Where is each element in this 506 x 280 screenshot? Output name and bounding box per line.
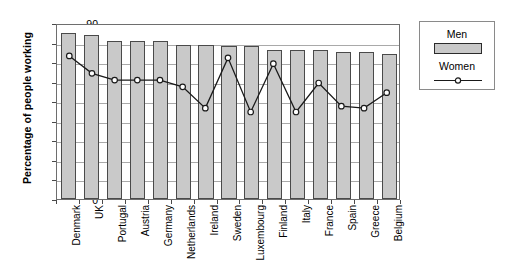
data-point-marker [112, 77, 118, 83]
data-point-marker [157, 77, 163, 83]
x-axis-label: Italy [301, 205, 312, 223]
data-point-marker [67, 53, 73, 59]
legend-item-men-label: Men [420, 28, 494, 40]
x-axis-label: Germany [163, 205, 174, 246]
x-axis-label: Belgium [393, 205, 404, 241]
x-axis-label: France [324, 205, 335, 236]
data-point-marker [248, 109, 254, 115]
x-axis-label: Netherlands [186, 205, 197, 259]
x-axis-label: Austria [140, 205, 151, 236]
x-axis-tickmark [217, 200, 218, 204]
x-axis-tickmark [377, 200, 378, 204]
x-axis-tickmark [56, 200, 57, 204]
legend-swatch-men [434, 43, 482, 54]
line-series-women [57, 25, 399, 199]
data-point-marker [180, 84, 186, 90]
data-point-marker [316, 80, 322, 86]
x-axis-tickmark [102, 200, 103, 204]
data-point-marker [203, 105, 209, 111]
x-axis-tickmark [148, 200, 149, 204]
chart-container: Percentage of people working 01020304050… [0, 0, 506, 280]
x-axis-tickmark [308, 200, 309, 204]
legend-symbol-women [434, 76, 482, 85]
x-axis-tickmark [125, 200, 126, 204]
data-point-marker [89, 71, 95, 77]
x-axis-tickmark [400, 200, 401, 204]
x-axis-label: Greece [370, 205, 381, 238]
x-axis-tickmark [331, 200, 332, 204]
legend-item-women-label: Women [420, 60, 494, 72]
x-axis-tickmark [79, 200, 80, 204]
x-axis-label: Sweden [232, 205, 243, 241]
x-axis-tickmark [285, 200, 286, 204]
x-axis-tickmark [354, 200, 355, 204]
x-axis-label: Portugal [117, 205, 128, 242]
data-point-marker [339, 103, 345, 109]
x-axis-tickmark [194, 200, 195, 204]
data-point-marker [271, 61, 277, 67]
plot-area [56, 24, 400, 200]
x-axis-tickmark [171, 200, 172, 204]
x-axis-label: UK [94, 205, 105, 219]
data-point-marker [361, 105, 367, 111]
women-line-path [69, 56, 386, 112]
x-axis-label: Luxembourg [255, 205, 266, 261]
data-point-marker [225, 55, 231, 61]
x-axis-label: Denmark [71, 205, 82, 246]
y-axis-title: Percentage of people working [20, 13, 34, 203]
x-axis-label: Ireland [209, 205, 220, 236]
data-point-marker [384, 90, 390, 96]
data-point-marker [135, 77, 141, 83]
x-axis-tickmark [239, 200, 240, 204]
x-axis-label: Spain [347, 205, 358, 231]
data-point-marker [293, 109, 299, 115]
x-axis-tickmark [262, 200, 263, 204]
chart-legend: Men Women [419, 21, 495, 90]
x-axis-label: Finland [278, 205, 289, 238]
